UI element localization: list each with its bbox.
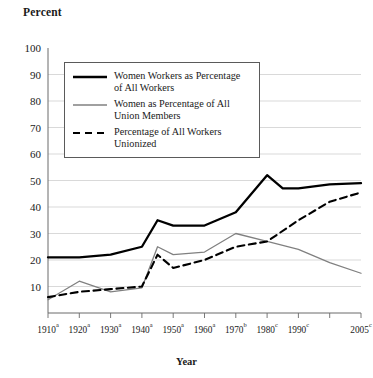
y-tick-label: 10 <box>30 281 42 293</box>
chart-legend: Women Workers as Percentageof All Worker… <box>64 62 260 158</box>
legend-label-line1: Women as Percentage of All <box>114 98 230 109</box>
x-tick-label: 1980c <box>256 320 278 335</box>
x-axis-label: Year <box>0 356 373 367</box>
x-tick-label: 1950a <box>162 320 184 335</box>
legend-item-workers-unionized: Percentage of All WorkersUnionized <box>72 126 251 149</box>
legend-label-line2: Unionized <box>114 138 156 149</box>
x-tick-label: 1910a <box>37 320 59 335</box>
y-tick-label: 30 <box>30 228 42 240</box>
legend-item-label: Women Workers as Percentageof All Worker… <box>114 70 251 93</box>
y-tick-label: 50 <box>30 175 42 187</box>
x-tick-label: 1990c <box>288 320 310 335</box>
y-tick-label: 100 <box>25 42 42 54</box>
chart-plot-area: 102030405060708090100 1910a1920a1930a194… <box>0 0 373 378</box>
dashed-line-key <box>72 126 108 139</box>
y-tick-label: 80 <box>30 95 42 107</box>
y-tick-label: 90 <box>30 69 42 81</box>
legend-label-line2: Union Members <box>114 110 181 121</box>
legend-label-line1: Percentage of All Workers <box>114 126 221 137</box>
legend-item-women-union-members: Women as Percentage of AllUnion Members <box>72 98 251 121</box>
legend-item-label: Women as Percentage of AllUnion Members <box>114 98 251 121</box>
x-tick-label: 1940a <box>131 320 153 335</box>
legend-item-women-workers: Women Workers as Percentageof All Worker… <box>72 70 251 93</box>
y-tick-label: 70 <box>30 122 42 134</box>
data-series-group <box>48 175 361 300</box>
x-tick-label: 1960a <box>194 320 216 335</box>
y-tick-label: 40 <box>30 201 42 213</box>
y-tick-label: 20 <box>30 254 42 266</box>
x-tick-marks-group <box>48 313 361 318</box>
data-series-line <box>48 192 361 297</box>
x-tick-label: 1970b <box>225 320 247 335</box>
x-tick-labels-group: 1910a1920a1930a1940a1950a1960a1970b1980c… <box>37 320 372 335</box>
y-tick-label: 60 <box>30 148 42 160</box>
data-series-line <box>48 175 361 257</box>
legend-label-line1: Women Workers as Percentage <box>114 70 240 81</box>
line-chart-svg: 102030405060708090100 1910a1920a1930a194… <box>0 0 373 378</box>
legend-item-label: Percentage of All WorkersUnionized <box>114 126 251 149</box>
solid-thin-line-key <box>72 98 108 111</box>
x-tick-label: 1920a <box>69 320 91 335</box>
legend-label-line2: of All Workers <box>114 82 174 93</box>
y-tick-labels-group: 102030405060708090100 <box>25 42 42 293</box>
x-tick-label: 2005c <box>350 320 372 335</box>
solid-thick-line-key <box>72 70 108 83</box>
x-tick-label: 1930a <box>100 320 122 335</box>
